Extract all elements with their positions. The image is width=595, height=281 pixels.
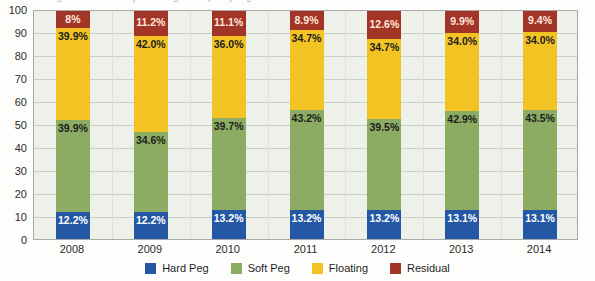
bar-segment-value-label: 42.9%: [445, 113, 479, 125]
bar-segment-value-label: 42.0%: [134, 38, 168, 50]
bar-group[interactable]: 13.1%42.9%34.0%9.9%: [445, 10, 479, 239]
bar-group[interactable]: 13.2%43.2%34.7%8.9%: [290, 10, 324, 239]
category-separator: [190, 10, 191, 239]
bar-segment-value-label: 39.9%: [56, 30, 90, 42]
y-axis-tick-label: 40: [15, 142, 27, 154]
x-axis: 2008200920102011201220132014: [33, 243, 578, 259]
plot-area: 12.2%39.9%39.9%8%12.2%34.6%42.0%11.2%13.…: [33, 10, 578, 240]
bar-segment-value-label: 34.7%: [367, 41, 401, 53]
bar-segment-value-label: 39.9%: [56, 122, 90, 134]
bar-segment-value-label: 9.4%: [523, 14, 557, 26]
bar-segment-value-label: 8%: [56, 13, 90, 25]
legend-label: Residual: [407, 262, 450, 274]
legend-item-soft-peg[interactable]: Soft Peg: [231, 262, 290, 274]
legend-label: Soft Peg: [248, 262, 290, 274]
stacked-bar-chart: Percentage of countries by exchange rate…: [0, 0, 595, 281]
bar-segment-floating[interactable]: 39.9%: [56, 28, 90, 120]
bar-segment-floating[interactable]: 34.0%: [523, 32, 557, 110]
bar-segment-hard-peg[interactable]: 13.1%: [523, 210, 557, 240]
legend-item-residual[interactable]: Residual: [390, 262, 450, 274]
y-axis-tick-label: 10: [15, 211, 27, 223]
bar-segment-hard-peg[interactable]: 13.1%: [445, 210, 479, 240]
bar-segment-hard-peg[interactable]: 13.2%: [367, 210, 401, 240]
bar-segment-value-label: 12.2%: [56, 214, 90, 226]
bar-segment-floating[interactable]: 34.7%: [290, 30, 324, 110]
bar-segment-residual[interactable]: 11.1%: [212, 10, 246, 36]
bar-segment-residual[interactable]: 8.9%: [290, 10, 324, 30]
bar-segment-floating[interactable]: 34.0%: [445, 33, 479, 111]
bar-group[interactable]: 12.2%39.9%39.9%8%: [56, 10, 90, 239]
bar-segment-value-label: 8.9%: [290, 14, 324, 26]
bar-segment-soft-peg[interactable]: 42.9%: [445, 111, 479, 210]
x-axis-tick-label: 2010: [215, 243, 239, 255]
bar-segment-residual[interactable]: 12.6%: [367, 10, 401, 39]
bar-segment-value-label: 34.7%: [290, 32, 324, 44]
category-separator: [501, 10, 502, 239]
bar-segment-value-label: 12.2%: [134, 214, 168, 226]
bar-segment-value-label: 34.0%: [445, 35, 479, 47]
bar-group[interactable]: 13.2%39.7%36.0%11.1%: [212, 10, 246, 239]
y-axis-tick-label: 30: [15, 165, 27, 177]
category-separator: [423, 10, 424, 239]
legend-swatch-icon: [390, 263, 401, 274]
y-axis-tick-label: 20: [15, 188, 27, 200]
bar-segment-soft-peg[interactable]: 34.6%: [134, 132, 168, 212]
bar-segment-value-label: 36.0%: [212, 38, 246, 50]
bar-segment-value-label: 11.1%: [212, 16, 246, 28]
x-axis-tick-label: 2009: [138, 243, 162, 255]
bar-segment-soft-peg[interactable]: 43.2%: [290, 110, 324, 209]
x-axis-tick-label: 2008: [60, 243, 84, 255]
bar-group[interactable]: 12.2%34.6%42.0%11.2%: [134, 10, 168, 239]
bar-segment-soft-peg[interactable]: 43.5%: [523, 110, 557, 210]
bar-segment-soft-peg[interactable]: 39.5%: [367, 119, 401, 210]
bar-segment-value-label: 13.2%: [367, 212, 401, 224]
bar-segment-hard-peg[interactable]: 12.2%: [134, 212, 168, 240]
bar-segment-floating[interactable]: 36.0%: [212, 36, 246, 119]
legend-swatch-icon: [145, 263, 156, 274]
chart-legend: Hard PegSoft PegFloatingResidual: [0, 262, 595, 274]
bar-segment-value-label: 39.7%: [212, 120, 246, 132]
x-axis-tick-label: 2012: [371, 243, 395, 255]
bar-segment-value-label: 9.9%: [445, 15, 479, 27]
legend-swatch-icon: [231, 263, 242, 274]
legend-item-floating[interactable]: Floating: [312, 262, 368, 274]
legend-swatch-icon: [312, 263, 323, 274]
bar-segment-residual[interactable]: 9.4%: [523, 10, 557, 32]
bar-segment-value-label: 34.0%: [523, 34, 557, 46]
bar-segment-residual[interactable]: 9.9%: [445, 10, 479, 33]
legend-label: Floating: [329, 262, 368, 274]
bar-segment-floating[interactable]: 34.7%: [367, 39, 401, 119]
legend-label: Hard Peg: [162, 262, 208, 274]
bar-segment-soft-peg[interactable]: 39.7%: [212, 118, 246, 209]
x-axis-tick-label: 2014: [527, 243, 551, 255]
bar-segment-soft-peg[interactable]: 39.9%: [56, 120, 90, 212]
bar-segment-value-label: 13.1%: [445, 212, 479, 224]
x-axis-tick-label: 2011: [294, 243, 318, 255]
bar-segment-value-label: 13.1%: [523, 212, 557, 224]
y-axis-tick-label: 80: [15, 50, 27, 62]
bar-group[interactable]: 13.2%39.5%34.7%12.6%: [367, 10, 401, 239]
bar-segment-value-label: 34.6%: [134, 134, 168, 146]
bar-segment-residual[interactable]: 8%: [56, 10, 90, 28]
category-separator: [268, 10, 269, 239]
bar-segment-value-label: 13.2%: [212, 212, 246, 224]
bar-segment-value-label: 13.2%: [290, 212, 324, 224]
y-axis-tick-label: 60: [15, 96, 27, 108]
bar-group[interactable]: 13.1%43.5%34.0%9.4%: [523, 10, 557, 239]
bar-segment-residual[interactable]: 11.2%: [134, 10, 168, 36]
y-axis-tick-label: 70: [15, 73, 27, 85]
y-axis-tick-label: 50: [15, 119, 27, 131]
bar-segment-value-label: 43.2%: [290, 112, 324, 124]
bar-segment-value-label: 39.5%: [367, 121, 401, 133]
x-axis-tick-label: 2013: [449, 243, 473, 255]
y-axis: 1009080706050403020100: [0, 10, 31, 240]
category-separator: [345, 10, 346, 239]
bar-segment-hard-peg[interactable]: 13.2%: [290, 210, 324, 240]
bar-segment-hard-peg[interactable]: 13.2%: [212, 210, 246, 240]
bar-segment-value-label: 12.6%: [367, 18, 401, 30]
legend-item-hard-peg[interactable]: Hard Peg: [145, 262, 208, 274]
y-axis-tick-label: 90: [15, 27, 27, 39]
bar-segment-hard-peg[interactable]: 12.2%: [56, 212, 90, 240]
bar-segment-floating[interactable]: 42.0%: [134, 36, 168, 133]
category-separator: [112, 10, 113, 239]
